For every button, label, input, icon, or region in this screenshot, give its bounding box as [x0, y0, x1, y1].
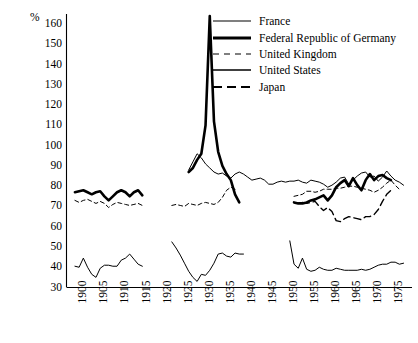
legend-item: Federal Republic of Germany: [212, 29, 396, 45]
legend-label-united-states: United States: [259, 64, 321, 76]
series-line-france: [75, 254, 142, 277]
legend-label-japan: Japan: [259, 81, 285, 93]
legend-key-thin-solid: [212, 14, 252, 28]
legend-key-thick-solid: [212, 31, 252, 45]
legend-label-germany: Federal Republic of Germany: [259, 32, 396, 44]
series-line-united-kingdom: [172, 187, 235, 206]
legend-key-thin-solid: [212, 63, 252, 77]
legend-item: France: [212, 13, 396, 29]
series-line-federal-republic-of-germany: [75, 190, 142, 200]
legend-item: United Kingdom: [212, 46, 396, 62]
legend-key-short-dash: [212, 47, 252, 61]
series-line-japan: [302, 190, 390, 221]
chart-container: % 30405060708090100110120130140150160 19…: [0, 0, 418, 343]
legend: France Federal Republic of Germany Unite…: [212, 13, 396, 95]
legend-item: United States: [212, 62, 396, 78]
legend-label-france: France: [259, 15, 290, 27]
legend-label-united-kingdom: United Kingdom: [259, 48, 337, 60]
legend-key-long-dash: [212, 80, 252, 94]
series-line-france: [290, 241, 404, 271]
legend-item: Japan: [212, 79, 396, 95]
series-line-france: [172, 242, 244, 282]
